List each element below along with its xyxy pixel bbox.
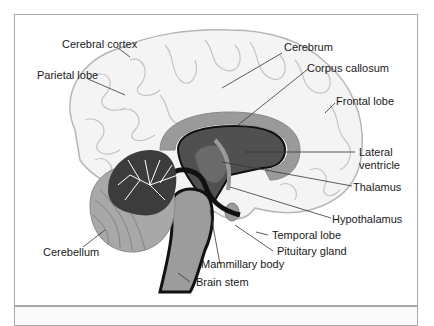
- label-lateral-ventricle-line1: Lateral: [359, 146, 393, 158]
- label-pituitary-gland: Pituitary gland: [277, 245, 347, 257]
- label-thalamus: Thalamus: [353, 181, 401, 193]
- label-parietal-lobe: Parietal lobe: [37, 69, 98, 81]
- label-cerebellum: Cerebellum: [43, 246, 99, 258]
- label-mammillary-body: Mammillary body: [201, 258, 284, 270]
- label-temporal-lobe: Temporal lobe: [272, 229, 341, 241]
- label-lateral-ventricle-line2: ventricle: [359, 159, 400, 171]
- label-cerebrum: Cerebrum: [284, 41, 333, 53]
- label-corpus-callosum: Corpus callosum: [307, 62, 389, 74]
- label-cerebral-cortex: Cerebral cortex: [62, 38, 137, 50]
- label-frontal-lobe: Frontal lobe: [336, 95, 394, 107]
- label-hypothalamus: Hypothalamus: [332, 213, 402, 225]
- label-brain-stem: Brain stem: [196, 276, 249, 288]
